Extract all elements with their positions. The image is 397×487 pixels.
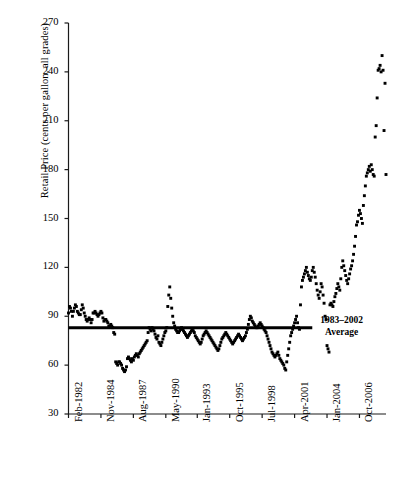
data-point — [153, 329, 156, 332]
data-point — [72, 310, 75, 313]
data-point — [306, 271, 309, 274]
data-point — [161, 338, 164, 341]
data-point — [328, 351, 331, 354]
data-point — [361, 222, 364, 225]
data-point — [157, 334, 160, 337]
data-point — [193, 331, 196, 334]
data-point — [282, 364, 285, 367]
data-point — [79, 313, 82, 316]
data-point — [365, 175, 368, 178]
data-point — [339, 277, 342, 280]
data-point — [290, 331, 293, 334]
x-tick-label: Nov-1984 — [105, 379, 116, 422]
data-point — [327, 347, 330, 350]
y-tick-label: 30 — [29, 407, 59, 418]
data-point — [344, 274, 347, 277]
data-point — [284, 369, 287, 372]
data-point — [170, 307, 173, 310]
data-point — [331, 305, 334, 308]
data-point — [250, 316, 253, 319]
data-point — [382, 69, 385, 72]
data-point — [67, 312, 70, 315]
data-point — [285, 360, 288, 363]
data-point — [171, 315, 174, 318]
data-point — [384, 82, 387, 85]
data-point — [347, 277, 350, 280]
data-point — [201, 338, 204, 341]
data-point — [245, 331, 248, 334]
data-point — [350, 264, 353, 267]
y-tick-label: 270 — [29, 16, 59, 27]
data-point — [309, 279, 312, 282]
data-point — [303, 272, 306, 275]
average-line-annotation: 1983–2002 Average — [320, 314, 363, 338]
data-point — [359, 212, 362, 215]
data-point — [267, 338, 270, 341]
data-point — [286, 354, 289, 357]
data-point — [378, 67, 381, 70]
data-point — [302, 276, 305, 279]
data-point — [146, 339, 149, 342]
data-point — [276, 351, 279, 354]
data-point — [299, 303, 302, 306]
data-point — [374, 136, 377, 139]
data-point — [156, 338, 159, 341]
y-tick-label: 120 — [29, 260, 59, 271]
data-point — [296, 321, 299, 324]
x-tick-label: Aug-1987 — [137, 379, 148, 422]
data-point — [219, 341, 222, 344]
data-point — [307, 274, 310, 277]
data-point — [346, 282, 349, 285]
data-point — [83, 312, 86, 315]
data-point — [288, 341, 291, 344]
data-point — [341, 259, 344, 262]
data-point — [315, 282, 318, 285]
data-point — [167, 294, 170, 297]
data-point — [320, 282, 323, 285]
data-point — [338, 289, 341, 292]
data-point — [268, 341, 271, 344]
data-point — [168, 285, 171, 288]
average-label-line1: 1983–2002 — [320, 314, 363, 326]
y-tick-label: 150 — [29, 212, 59, 223]
data-point — [379, 64, 382, 67]
data-point — [312, 266, 315, 269]
data-point — [125, 365, 128, 368]
average-label-line2: Average — [320, 326, 363, 338]
data-point — [326, 344, 329, 347]
data-point — [159, 344, 162, 347]
data-point — [132, 359, 135, 362]
data-point — [319, 290, 322, 293]
data-point — [363, 194, 366, 197]
data-point — [266, 334, 269, 337]
y-tick-label: 210 — [29, 114, 59, 125]
data-point — [81, 303, 84, 306]
data-point — [343, 269, 346, 272]
data-point — [342, 264, 345, 267]
data-point — [113, 333, 116, 336]
data-point — [147, 331, 150, 334]
data-point — [353, 245, 356, 248]
x-tick-label: May-1990 — [170, 378, 181, 422]
data-point — [269, 344, 272, 347]
data-point — [116, 364, 119, 367]
x-tick-label: Oct-2006 — [363, 382, 374, 422]
data-point — [71, 315, 74, 318]
gasoline-price-chart: Retail Price (cents per gallon, all grad… — [0, 0, 397, 487]
data-point — [362, 204, 365, 207]
x-tick-label: Feb-1982 — [73, 382, 84, 422]
y-tick-label: 180 — [29, 163, 59, 174]
data-point — [322, 294, 325, 297]
data-point — [313, 271, 316, 274]
data-point — [289, 334, 292, 337]
data-point — [154, 333, 157, 336]
data-point — [217, 347, 220, 350]
data-point — [305, 266, 308, 269]
data-point — [162, 334, 165, 337]
data-point — [385, 173, 388, 176]
data-point — [106, 321, 109, 324]
data-point — [375, 124, 378, 127]
data-point — [69, 307, 72, 310]
data-point — [314, 276, 317, 279]
data-point — [293, 321, 296, 324]
